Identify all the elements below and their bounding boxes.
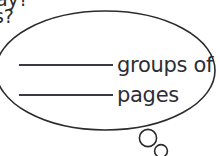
answer-blank-1[interactable] <box>19 64 113 66</box>
answer-label-1: groups of <box>117 55 213 76</box>
tail-circle-small <box>155 145 168 156</box>
tail-circle-large <box>139 129 156 146</box>
answer-blank-2[interactable] <box>19 94 113 96</box>
answer-row-2: pages <box>19 84 179 106</box>
answer-row-1: groups of <box>19 54 213 76</box>
answer-label-2: pages <box>117 85 179 106</box>
worksheet-canvas: ay? s? groups of pages <box>0 0 220 156</box>
thought-bubble <box>0 0 220 156</box>
